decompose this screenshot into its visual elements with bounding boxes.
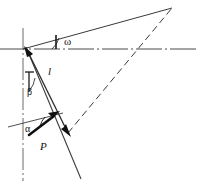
omega-label: ω <box>64 36 71 47</box>
dashed-diagonal-ray <box>68 8 172 133</box>
force-label: P <box>40 141 47 152</box>
upper-inclined-ray <box>23 8 172 49</box>
length-label: l <box>48 66 51 77</box>
alpha-label: α <box>25 124 30 134</box>
length-dimension-arrow <box>27 50 67 131</box>
figure-container: ω l β α P <box>0 0 197 182</box>
beta-label: β <box>27 87 32 97</box>
